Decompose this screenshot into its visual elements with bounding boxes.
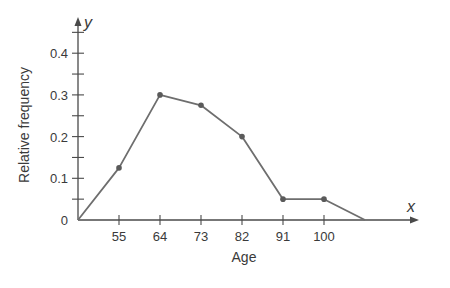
x-tick-label: 100 xyxy=(313,229,335,244)
data-point-marker xyxy=(239,134,245,140)
x-axis-arrow-icon xyxy=(410,217,419,224)
data-point-marker xyxy=(321,196,327,202)
y-axis-title: Relative frequency xyxy=(16,67,32,183)
ticks: 556473829110000.10.20.30.4 xyxy=(50,32,335,244)
frequency-polygon-line xyxy=(78,95,365,220)
x-tick-label: 55 xyxy=(112,229,126,244)
data-point-marker xyxy=(116,165,122,171)
x-tick-label: 82 xyxy=(235,229,249,244)
y-tick-label: 0.4 xyxy=(50,46,68,61)
data-point-marker xyxy=(157,92,163,98)
y-tick-label: 0 xyxy=(61,213,68,228)
frequency-polygon-chart: 556473829110000.10.20.30.4 Age Relative … xyxy=(0,0,450,288)
data-point-marker xyxy=(198,103,204,109)
y-tick-label: 0.2 xyxy=(50,130,68,145)
data-series xyxy=(78,92,365,220)
x-tick-label: 91 xyxy=(276,229,290,244)
y-tick-label: 0.1 xyxy=(50,171,68,186)
x-tick-label: 64 xyxy=(153,229,167,244)
x-axis-title: Age xyxy=(232,249,257,265)
y-tick-label: 0.3 xyxy=(50,88,68,103)
x-tick-label: 73 xyxy=(194,229,208,244)
x-axis-variable: x xyxy=(406,198,416,215)
y-axis-arrow-icon xyxy=(75,17,82,26)
y-axis-variable: y xyxy=(83,14,93,31)
data-point-marker xyxy=(280,196,286,202)
axes xyxy=(75,17,420,224)
